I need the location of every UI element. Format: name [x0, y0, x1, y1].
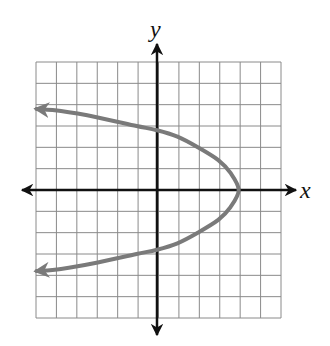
y-axis-label: y: [148, 16, 161, 42]
x-axis-label: x: [299, 177, 311, 203]
parabola-chart: x y: [0, 0, 330, 346]
